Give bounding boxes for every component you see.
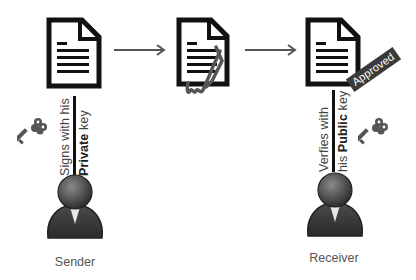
document-signed-icon xyxy=(176,17,236,105)
arrow-right-icon xyxy=(244,44,298,56)
sender-action-line1: Signs with his xyxy=(58,96,72,176)
receiver-action-text: Verfies with his Public key xyxy=(317,90,350,172)
receiver-action-line1: Verfies with xyxy=(317,90,331,172)
receiver-avatar-icon xyxy=(304,170,366,242)
document-original-icon xyxy=(46,17,102,89)
receiver-label: Receiver xyxy=(294,251,374,265)
arrow-right-icon xyxy=(113,44,167,56)
public-key-icon xyxy=(358,116,388,148)
sender-action-text: Signs with his Private key xyxy=(58,96,91,176)
receiver-action-line2: his Public key xyxy=(336,90,350,172)
sender-action-line2: Private key xyxy=(77,96,91,176)
sender-divider xyxy=(73,96,76,176)
receiver-divider xyxy=(332,90,335,172)
private-key-icon xyxy=(17,116,47,148)
sender-avatar-icon xyxy=(44,172,106,244)
sender-label: Sender xyxy=(35,255,115,269)
